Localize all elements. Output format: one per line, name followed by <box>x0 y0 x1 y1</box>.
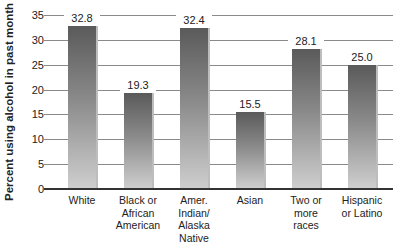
x-category-label: Hispanicor Latino <box>332 194 392 219</box>
bar-value-label: 19.3 <box>120 79 156 91</box>
x-category-label: Black orAfricanAmerican <box>108 194 168 232</box>
bar-value-label: 25.0 <box>344 51 380 63</box>
y-axis-label: Percent using alcohol in past month <box>3 3 15 201</box>
bar-chart: Percent using alcohol in past month 0510… <box>0 0 404 247</box>
bar <box>236 112 264 189</box>
x-axis-line <box>44 188 393 190</box>
gridline <box>44 65 393 66</box>
y-tick-label: 20 <box>28 84 44 96</box>
y-tick-label: 10 <box>28 133 44 145</box>
gridline <box>44 90 393 91</box>
bar-value-label: 32.4 <box>176 14 212 26</box>
y-tick-label: 35 <box>28 9 44 21</box>
bar <box>292 49 320 189</box>
x-category-label: Amer.Indian/AlaskaNative <box>164 194 224 244</box>
bar <box>124 93 152 189</box>
gridline <box>44 164 393 165</box>
bar-value-label: 15.5 <box>232 98 268 110</box>
x-category-label: Two ormoreraces <box>276 194 336 232</box>
gridline <box>44 40 393 41</box>
y-tick-label: 0 <box>28 183 44 195</box>
y-tick-label: 15 <box>28 108 44 120</box>
bar <box>348 65 376 189</box>
bar <box>68 26 96 189</box>
gridline <box>44 114 393 115</box>
bar-value-label: 28.1 <box>288 35 324 47</box>
y-tick-label: 5 <box>28 158 44 170</box>
bar <box>180 28 208 189</box>
bar-value-label: 32.8 <box>64 12 100 24</box>
x-category-label: White <box>52 194 112 207</box>
gridline <box>44 139 393 140</box>
y-tick-label: 30 <box>28 34 44 46</box>
x-category-label: Asian <box>220 194 280 207</box>
y-tick-label: 25 <box>28 59 44 71</box>
